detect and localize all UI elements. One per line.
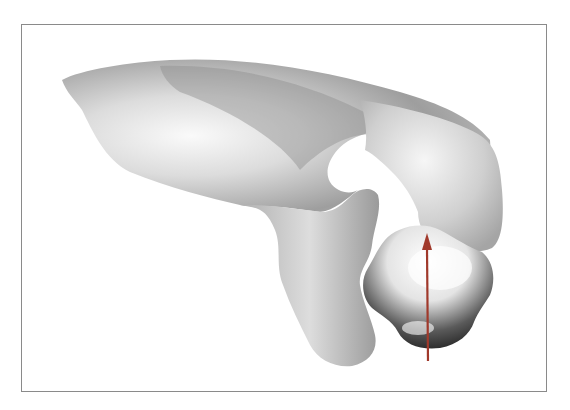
bone-illustration [0,0,570,410]
humeral-head-highlight [408,246,472,290]
glenoid-neck [240,189,379,366]
humeral-head-lower-highlight [402,321,434,335]
